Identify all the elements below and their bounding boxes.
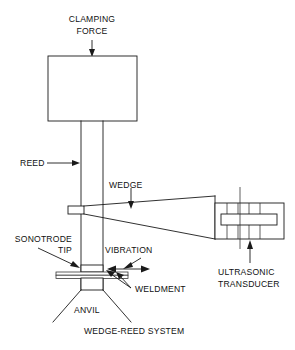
label-reed: REED	[20, 158, 45, 168]
anvil	[53, 278, 131, 322]
wedge-tip-block	[68, 206, 84, 214]
label-sonotrode-line2: TIP	[58, 245, 72, 255]
anvil-post	[81, 278, 103, 290]
wedge-reed-system-diagram: CLAMPING FORCE REED WEDGE SONOTRODE TIP …	[0, 0, 295, 350]
ultrasonic-arrow	[247, 240, 253, 263]
ultrasonic-transducer	[215, 187, 284, 249]
sonotrode-tip-block	[81, 265, 103, 272]
reed-arrow	[47, 160, 80, 166]
label-vibration: VIBRATION	[105, 245, 152, 255]
label-ultrasonic-line1: ULTRASONIC	[218, 267, 275, 277]
label-sonotrode-line1: SONOTRODE	[15, 234, 72, 244]
label-system-caption: WEDGE-REED SYSTEM	[84, 326, 184, 336]
transducer-inner-element	[221, 214, 277, 225]
diagram-canvas: CLAMPING FORCE REED WEDGE SONOTRODE TIP …	[0, 0, 295, 350]
clamping-force-arrow	[89, 40, 95, 57]
wedge-arrow	[128, 188, 134, 209]
vibration-leader	[123, 258, 141, 269]
label-anvil: ANVIL	[74, 305, 100, 315]
label-ultrasonic-line2: TRANSDUCER	[218, 279, 280, 289]
wedge-horn	[68, 196, 215, 239]
label-wedge: WEDGE	[109, 180, 143, 190]
clamping-mass-block	[48, 56, 137, 121]
label-clamping-force-line1: CLAMPING	[69, 14, 116, 24]
label-clamping-force-line2: FORCE	[76, 26, 107, 36]
label-weldment: WELDMENT	[135, 284, 186, 294]
